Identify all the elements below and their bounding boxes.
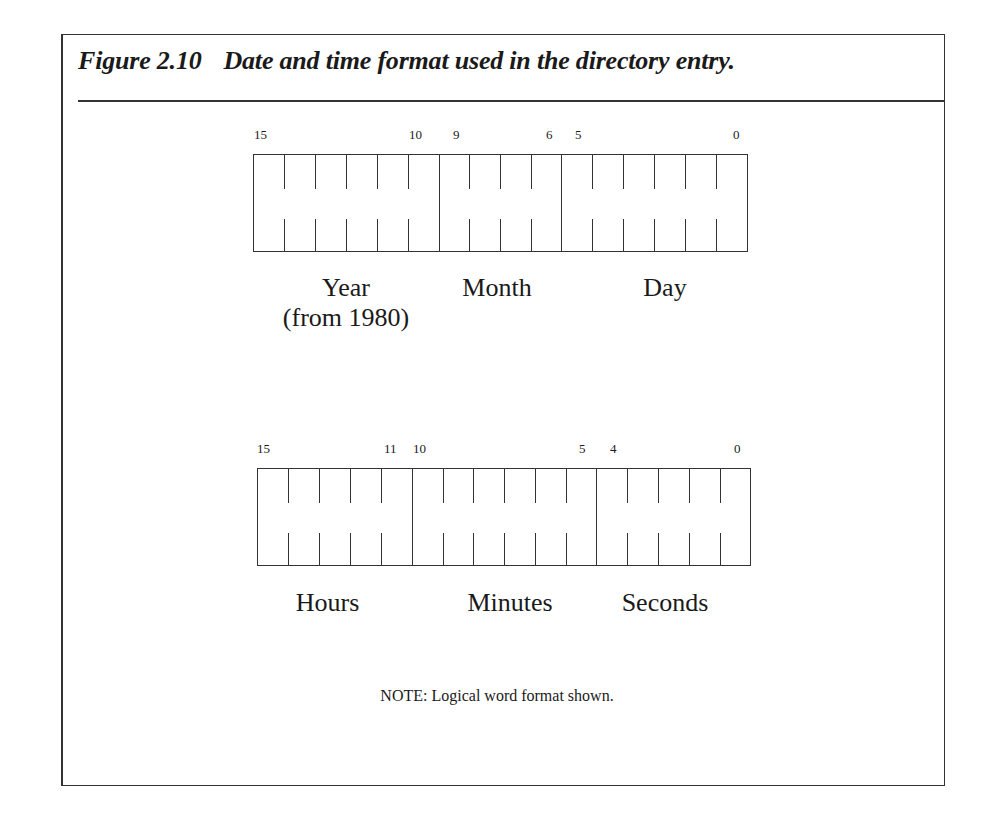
title-rule (78, 100, 944, 102)
figure-number: Figure 2.10 (78, 46, 201, 76)
field-label-seconds: Seconds (595, 588, 735, 618)
date-bit-6: 6 (546, 127, 553, 143)
date-bit-0: 0 (733, 127, 740, 143)
time-bit-4: 4 (610, 441, 617, 457)
time-bit-10: 10 (413, 441, 426, 457)
time-bit-15: 15 (257, 441, 270, 457)
field-divider (561, 155, 562, 251)
field-divider (596, 469, 597, 565)
field-label-year: Year (from 1980) (253, 273, 439, 333)
time-register (257, 468, 751, 566)
field-sublabel-year: (from 1980) (253, 303, 439, 333)
date-bit-5: 5 (575, 127, 582, 143)
date-bit-9: 9 (453, 127, 460, 143)
field-divider (439, 155, 440, 251)
time-bit-0: 0 (734, 441, 741, 457)
date-bit-15: 15 (254, 127, 267, 143)
field-label-day: Day (600, 273, 730, 303)
time-bit-11: 11 (384, 441, 397, 457)
date-bit-10: 10 (409, 127, 422, 143)
field-divider (412, 469, 413, 565)
figure-note: NOTE: Logical word format shown. (0, 687, 994, 705)
date-register (253, 154, 748, 252)
field-label-minutes: Minutes (430, 588, 590, 618)
field-label-hours: Hours (265, 588, 390, 618)
figure-caption: Date and time format used in the directo… (223, 46, 734, 75)
figure-frame (61, 34, 945, 786)
field-label-month: Month (437, 273, 557, 303)
time-bit-5: 5 (579, 441, 586, 457)
figure-title: Figure 2.10Date and time format used in … (78, 46, 735, 76)
